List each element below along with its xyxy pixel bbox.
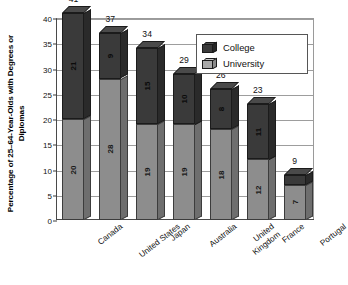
bar-segment-university[interactable]: 12 <box>247 159 269 220</box>
bar-segment-value-college: 21 <box>69 62 78 71</box>
bar-column[interactable]: 191534 <box>136 48 158 220</box>
legend-label-college: College <box>223 42 255 53</box>
y-tick-label: 30 <box>26 65 57 74</box>
x-tick-label: Australia <box>208 222 239 249</box>
bar-segment-college[interactable] <box>284 175 306 185</box>
bar-side-face-college <box>195 70 202 124</box>
bar-column[interactable]: 191029 <box>173 74 195 220</box>
bar-segment-value-university: 18 <box>216 170 225 179</box>
y-tick-label: 40 <box>26 15 57 24</box>
bar-total-label: 9 <box>292 156 297 166</box>
bar-column[interactable]: 28937 <box>99 33 121 220</box>
bar-column[interactable]: 18826 <box>210 89 232 220</box>
legend-swatch-university-icon <box>202 58 217 69</box>
x-tick-label: Canada <box>97 222 126 248</box>
bar-segment-value-university: 19 <box>180 168 189 177</box>
bar-side-face-college <box>232 85 239 129</box>
bar-segment-university[interactable]: 7 <box>284 185 306 220</box>
bar-total-label: 29 <box>179 55 189 65</box>
bar-side-face-university <box>158 120 165 220</box>
bar-total-label: 37 <box>106 14 116 24</box>
bar-segment-value-university: 7 <box>290 200 299 204</box>
bar-column[interactable]: 202141 <box>62 13 84 220</box>
bar-column[interactable]: 121123 <box>247 104 269 220</box>
y-tick-label: 15 <box>26 141 57 150</box>
y-tick-label: 35 <box>26 40 57 49</box>
bar-side-face-college <box>121 29 128 78</box>
bar-side-face-university <box>195 120 202 220</box>
bar-segment-college[interactable]: 15 <box>136 48 158 124</box>
y-tick-label: 20 <box>26 116 57 125</box>
bar-total-label: 23 <box>253 85 263 95</box>
legend: College University <box>196 34 308 74</box>
bar-segment-college[interactable]: 10 <box>173 74 195 125</box>
bar-segment-university[interactable]: 18 <box>210 129 232 220</box>
y-axis-title: Percentage of 25–64-Year-Olds with Degre… <box>6 26 27 222</box>
bar-segment-value-college: 9 <box>106 54 115 58</box>
bar-segment-university[interactable]: 28 <box>99 79 121 220</box>
bar-side-face-university <box>232 125 239 220</box>
bar-segment-value-university: 20 <box>69 165 78 174</box>
bar-side-face-college <box>158 45 165 124</box>
bar-segment-value-university: 12 <box>253 185 262 194</box>
bar-segment-value-university: 28 <box>106 145 115 154</box>
bar-segment-value-college: 10 <box>180 94 189 103</box>
legend-item-college[interactable]: College <box>202 39 302 55</box>
bar-side-face-university <box>269 156 276 220</box>
y-tick-label: 10 <box>26 166 57 175</box>
x-tick-label: UnitedKingdom <box>245 222 283 258</box>
x-tick-label: Portugal <box>318 222 348 249</box>
bar-side-face-university <box>306 181 313 220</box>
bar-side-face-college <box>269 100 276 159</box>
legend-swatch-college-icon <box>202 42 217 53</box>
y-tick-label: 5 <box>26 191 57 200</box>
bar-side-face-college <box>84 9 91 119</box>
bar-total-label: 41 <box>69 0 79 4</box>
bar-total-label: 34 <box>142 29 152 39</box>
legend-label-university: University <box>223 58 264 69</box>
y-tick-label: 25 <box>26 90 57 99</box>
bar-segment-value-college: 11 <box>253 127 262 135</box>
bar-side-face-university <box>121 75 128 220</box>
bar-segment-university[interactable]: 19 <box>136 124 158 220</box>
y-tick-label: 0 <box>26 217 57 226</box>
bar-segment-value-college: 15 <box>143 82 152 91</box>
bar-segment-university[interactable]: 20 <box>62 119 84 220</box>
bar-segment-college[interactable]: 11 <box>247 104 269 160</box>
bar-side-face-university <box>84 115 91 220</box>
bar-column[interactable]: 79 <box>284 175 306 220</box>
bar-segment-college[interactable]: 21 <box>62 13 84 119</box>
legend-item-university[interactable]: University <box>202 55 302 71</box>
bar-segment-college[interactable]: 8 <box>210 89 232 129</box>
x-tick-label: France <box>280 222 306 246</box>
bar-segment-value-university: 19 <box>143 168 152 177</box>
bar-segment-college[interactable]: 9 <box>99 33 121 78</box>
x-axis-labels: CanadaUnited StatesJapanAustraliaUnitedK… <box>56 222 314 284</box>
bar-segment-value-college: 8 <box>216 107 225 111</box>
bar-segment-university[interactable]: 19 <box>173 124 195 220</box>
